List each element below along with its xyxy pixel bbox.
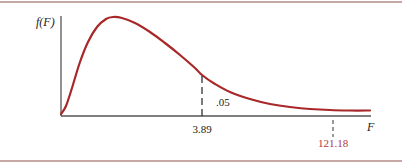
f-distribution-chart: f(F) F 3.89 .05 121.18 [0,0,402,166]
critical-value-label: 3.89 [192,123,212,135]
x-axis-label: F [366,120,375,134]
tail-area-label: .05 [216,96,230,108]
y-axis-label: f(F) [36,15,55,29]
observed-value-label: 121.18 [318,137,349,149]
